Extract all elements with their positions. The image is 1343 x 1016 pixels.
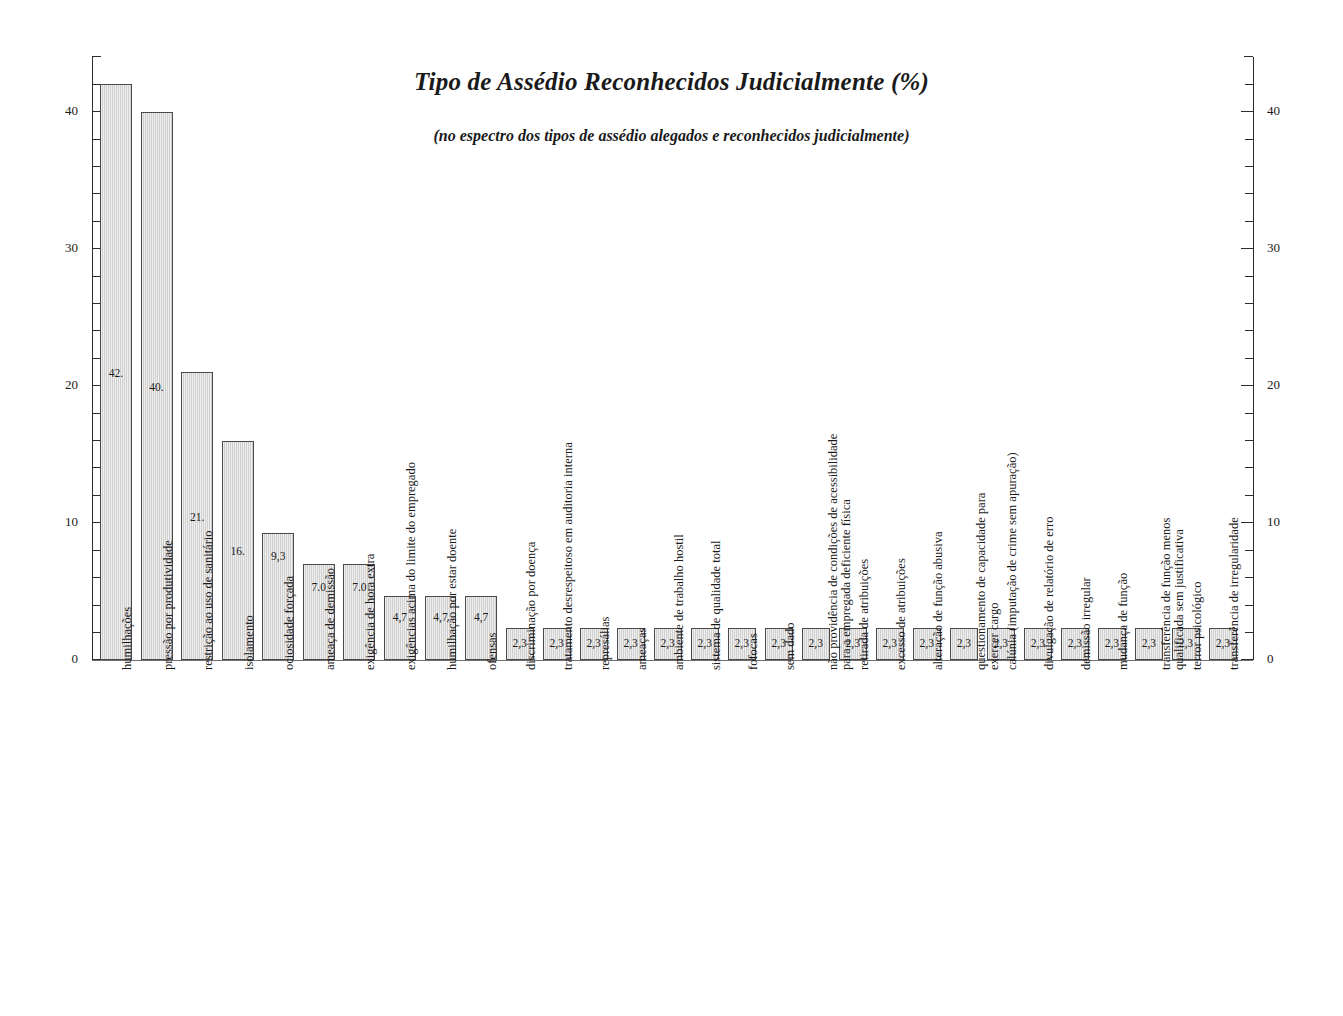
x-category-label: humilhações [121,607,134,670]
x-category-label: discriminação por doença [525,542,538,670]
x-category-label: exigências acima do limite do empregado [405,462,418,670]
bar-value-label: 2,3 [1136,637,1162,649]
x-axis-category-labels: humilhaçõespressão por produtividaderest… [92,666,1253,1006]
x-category-label: tratamento desrespeitoso em auditoria in… [562,442,575,670]
x-category-label: terror psicológico [1191,581,1204,670]
y-tick-label-right-40: 40 [1267,103,1307,119]
y-tick-label-left-10: 10 [38,514,78,530]
y-tick-label-right-20: 20 [1267,377,1307,393]
x-category-label: alteração de função abusiva [932,532,945,670]
x-category-label: ameaças [636,628,649,670]
x-category-label: pressão por produtividade [162,540,175,670]
x-category-label: fofocas [747,633,760,670]
x-category-label: represálias [599,617,612,670]
bar-value-label: 16. [223,545,253,557]
bar-value-label: 4,7 [466,611,496,623]
x-category-label: ameaça de demissão [324,568,337,670]
x-category-label: exigência de hora extra [364,554,377,670]
x-category-label: sem dado [784,622,797,670]
x-category-label: calúnia (imputação de crime sem apuração… [1006,452,1019,670]
y-tick-label-left-30: 30 [38,240,78,256]
x-category-label: transferência de função menosqualificada… [1160,420,1186,670]
x-category-label: demissão irregular [1080,577,1093,670]
bar-value-label: 2,3 [951,637,977,649]
y-tick-label-left-40: 40 [38,103,78,119]
x-category-label: ociosidade forçada [283,576,296,670]
chart-canvas: Tipo de Assédio Reconhecidos Judicialmen… [0,0,1343,1016]
x-category-label: ofensas [486,633,499,671]
x-category-label: mudança de função [1117,573,1130,670]
bar: 42. [100,84,132,660]
x-category-label: divulgação de relatório de erro [1043,517,1056,670]
y-tick-label-right-30: 30 [1267,240,1307,256]
bar-value-label: 9,3 [263,550,293,562]
x-category-label: ambiente de trabalho hostil [673,534,686,670]
x-category-label: isolamento [243,615,256,670]
x-category-label: sistema de qualidade total [710,541,723,670]
x-category-label: retirada de atribuições [858,559,871,670]
bar-value-label: 40. [142,381,172,393]
x-category-label: restrição ao uso de sanitário [202,530,215,670]
x-category-label: transferência de irregularidade [1228,517,1241,670]
bar-value-label: 2,3 [803,637,829,649]
bar-value-label: 21. [182,511,212,523]
x-category-label: não providência de condições de acessibi… [827,420,853,670]
y-tick-label-left-20: 20 [38,377,78,393]
bar-value-label: 42. [101,367,131,379]
x-category-label: questionamento de capacidade paraexercer… [975,420,1001,670]
x-category-label: excesso de atribuições [895,558,908,670]
x-category-label: humilhação por estar doente [446,529,459,670]
y-tick-label-right-10: 10 [1267,514,1307,530]
y-axis-right [1253,57,1254,660]
y-tick-label-left-0: 0 [38,651,78,667]
y-tick-label-right-0: 0 [1267,651,1307,667]
